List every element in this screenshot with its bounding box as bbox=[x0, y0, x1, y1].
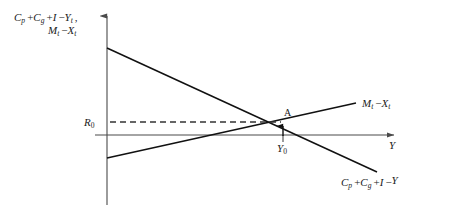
y0-tick-label: Y0 bbox=[277, 142, 287, 156]
r0-axis-label: R0 bbox=[83, 116, 95, 130]
equilibrium-point-a-label: A bbox=[284, 107, 292, 118]
diagram-canvas: Cp+Cg+I−Yt, Mt−Xt R0 A Y0 Y Mt−Xt Cp+Cg+… bbox=[0, 0, 456, 218]
absorption-gap-line-label: Cp+Cg+I−Y bbox=[341, 174, 400, 191]
import-minus-export-line-label: Mt−Xt bbox=[361, 97, 391, 111]
import-minus-export-line bbox=[107, 103, 356, 158]
x-axis-label: Y bbox=[389, 139, 397, 151]
absorption-gap-line bbox=[107, 48, 377, 172]
y-axis-label-line2: Mt−Xt bbox=[47, 24, 77, 38]
economics-diagram-figure: Cp+Cg+I−Yt, Mt−Xt R0 A Y0 Y Mt−Xt Cp+Cg+… bbox=[0, 0, 456, 218]
curves-group bbox=[107, 48, 377, 172]
